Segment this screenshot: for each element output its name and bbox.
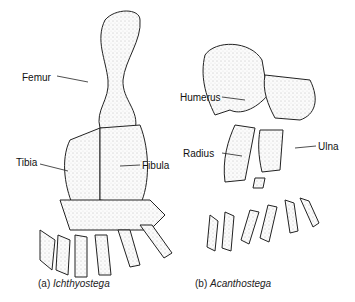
label-radius: Radius [183,148,214,159]
caption-a: (a) Ichthyostega [38,278,110,289]
caption-b: (b) Acanthostega [195,278,271,289]
label-fibula: Fibula [142,160,169,171]
label-ulna: Ulna [318,141,339,152]
limb-illustration [0,0,355,302]
label-femur: Femur [22,72,51,83]
ichthyostega-hindlimb [40,11,172,277]
label-humerus: Humerus [180,92,221,103]
label-tibia: Tibia [16,157,37,168]
